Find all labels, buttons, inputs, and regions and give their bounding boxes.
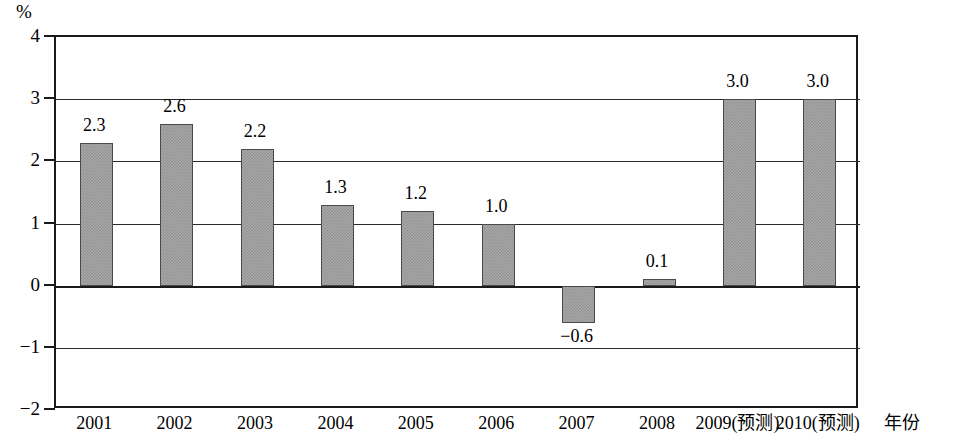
zero-line xyxy=(56,286,860,288)
bar-value-label: 0.1 xyxy=(617,252,697,270)
bar xyxy=(80,143,113,286)
x-axis-tick-label: 2010(预测) xyxy=(758,414,878,432)
bar xyxy=(241,149,274,286)
bar-value-label: 2.2 xyxy=(215,122,295,140)
y-axis-tick-label: 1 xyxy=(6,212,40,231)
y-axis-tick-label: 4 xyxy=(6,26,40,45)
y-axis-tick-label: −1 xyxy=(6,336,40,355)
bar xyxy=(321,205,354,286)
bar-value-label: 3.0 xyxy=(778,72,858,90)
bar-value-label: −0.6 xyxy=(537,327,617,345)
y-axis-tick-label: 2 xyxy=(6,150,40,169)
bar-value-label: 1.0 xyxy=(456,197,536,215)
bar-value-label: 1.2 xyxy=(376,184,456,202)
bar xyxy=(643,279,676,285)
bar xyxy=(482,224,515,286)
bar-value-label: 2.6 xyxy=(135,97,215,115)
y-axis-tick-label: 0 xyxy=(6,274,40,293)
bar-value-label: 1.3 xyxy=(295,178,375,196)
y-axis-tick-mark xyxy=(44,408,55,410)
bar-value-label: 2.3 xyxy=(54,116,134,134)
bar xyxy=(160,124,193,286)
bar xyxy=(401,211,434,286)
y-axis-tick-label: 3 xyxy=(6,88,40,107)
bar-chart: % 43210−1−2 2.32.62.21.31.21.0−0.60.13.0… xyxy=(0,0,953,442)
bar xyxy=(803,99,836,286)
y-axis-tick-labels: 43210−1−2 xyxy=(0,0,40,442)
x-axis-name: 年份 xyxy=(884,414,920,432)
bar-value-label: 3.0 xyxy=(697,72,777,90)
bar xyxy=(562,286,595,323)
bar xyxy=(723,99,756,286)
gridline xyxy=(56,348,860,349)
